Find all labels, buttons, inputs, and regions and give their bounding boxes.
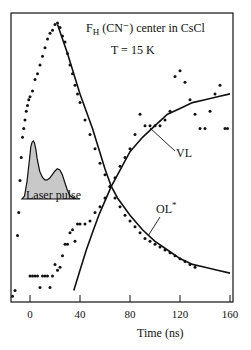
x-tick-label: 0 [27, 308, 33, 320]
plot-data [11, 22, 230, 298]
annotation-ol: OL* [156, 200, 177, 216]
x-tick-label: 120 [172, 308, 189, 320]
x-axis: 04080120160 [27, 295, 239, 320]
x-tick-label: 160 [222, 308, 239, 320]
x-tick-label: 80 [125, 308, 137, 320]
chart: 04080120160 FH (CN⁻) center in CsCl T = … [0, 0, 251, 350]
fit-ol-fit [58, 25, 231, 274]
laser-pulse-label: Laser pulse [26, 188, 81, 202]
x-axis-label: Time (ns) [137, 326, 184, 340]
chart-title: FH (CN⁻) center in CsCl [86, 21, 206, 37]
x-tick-label: 40 [75, 308, 87, 320]
series-ol-data [11, 22, 197, 298]
fit-vl-fit [74, 94, 230, 291]
annotation-vl: VL [176, 146, 192, 160]
chart-subtitle: T = 15 K [111, 43, 155, 57]
